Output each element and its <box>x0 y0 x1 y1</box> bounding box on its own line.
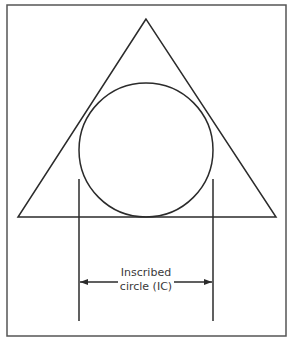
label-inscribed: Inscribed <box>121 266 171 279</box>
label-circle-ic: circle (IC) <box>120 280 172 293</box>
inscribed-circle <box>79 83 213 217</box>
triangle-outline <box>18 19 276 217</box>
inscribed-circle-diagram: Inscribed circle (IC) <box>0 0 289 342</box>
